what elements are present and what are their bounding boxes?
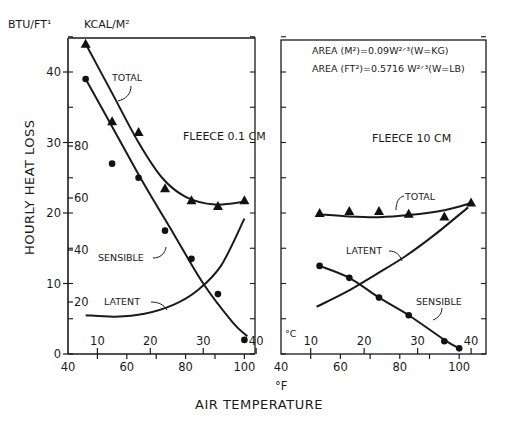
triangle-marker	[134, 127, 144, 136]
f-tick-label: 40	[61, 360, 76, 374]
sensible-curve	[320, 266, 460, 348]
area-formula-lb: AREA (FT²)=0.5716 W²ᐟ³(W=LB)	[312, 63, 465, 74]
c-tick-label: 30	[410, 334, 425, 348]
circle-marker	[188, 256, 195, 263]
circle-marker	[215, 291, 222, 298]
left-total-leader	[118, 86, 131, 101]
latent-curve	[317, 207, 468, 306]
right-sensible-leader	[433, 308, 442, 320]
f-tick-label: 80	[392, 360, 407, 374]
left-sensible-label: SENSIBLE	[98, 252, 144, 263]
c-tick-label: 40	[249, 334, 264, 348]
f-tick-label: 80	[178, 360, 193, 374]
circle-marker	[441, 338, 448, 345]
left-axis-ticks: 4060801001020304001020304020406080	[46, 37, 263, 374]
celsius-unit: °C	[285, 328, 297, 339]
right-axis-ticks: 40608010010203040	[274, 37, 486, 374]
left-panel: 4060801001020304001020304020406080 FLEEC…	[46, 37, 265, 374]
kcal-tick-label: 80	[74, 139, 89, 153]
circle-marker	[109, 160, 116, 167]
c-tick-label: 10	[90, 334, 105, 348]
circle-marker	[346, 275, 353, 282]
right-sensible-label: SENSIBLE	[416, 296, 462, 307]
triangle-marker	[239, 195, 249, 204]
circle-marker	[405, 312, 412, 319]
right-curves	[317, 203, 471, 348]
btu-tick-label: 20	[46, 206, 61, 220]
circle-marker	[82, 76, 89, 83]
f-tick-label: 60	[119, 360, 134, 374]
fahrenheit-unit: °F	[275, 379, 287, 393]
c-tick-label: 40	[464, 334, 479, 348]
left-latent-label: LATENT	[104, 296, 140, 307]
triangle-marker	[466, 197, 476, 206]
left-sensible-leader	[153, 247, 166, 258]
kcal-tick-label: 40	[74, 243, 89, 257]
triangle-marker	[404, 209, 414, 218]
c-tick-label: 20	[357, 334, 372, 348]
kcal-tick-label: 20	[74, 295, 89, 309]
f-tick-label: 100	[448, 360, 470, 374]
heat-loss-figure: BTU/FT¹ KCAL/M² HOURLY HEAT LOSS 4060801…	[0, 0, 508, 433]
triangle-marker	[315, 208, 325, 217]
y-units-btu: BTU/FT¹	[8, 18, 51, 31]
left-total-label: TOTAL	[111, 72, 143, 83]
left-panel-label: FLEECE 0.1 CM	[183, 130, 266, 143]
kcal-tick-label: 60	[74, 191, 89, 205]
f-tick-label: 40	[274, 360, 289, 374]
y-axis-title: HOURLY HEAT LOSS	[22, 119, 37, 255]
circle-marker	[162, 227, 169, 234]
circle-marker	[376, 294, 383, 301]
triangle-marker	[81, 39, 91, 48]
btu-tick-label: 0	[54, 347, 61, 361]
circle-marker	[456, 345, 463, 352]
circle-marker	[135, 174, 142, 181]
c-tick-label: 20	[143, 334, 158, 348]
right-panel-label: FLEECE 10 CM	[372, 132, 451, 145]
f-tick-label: 100	[233, 360, 255, 374]
area-formula-kg: AREA (M²)=0.09W²ᐟ³(W=KG)	[312, 45, 449, 56]
right-panel: 40608010010203040 AREA (M²)=0.09W²ᐟ³(W=K…	[274, 37, 486, 374]
total-curve	[320, 203, 471, 217]
triangle-marker	[374, 206, 384, 215]
f-tick-label: 60	[333, 360, 348, 374]
c-tick-label: 10	[303, 334, 318, 348]
x-axis-title: AIR TEMPERATURE	[195, 397, 323, 412]
btu-tick-label: 10	[46, 277, 61, 291]
btu-tick-label: 30	[46, 136, 61, 150]
left-panel-frame	[68, 38, 255, 354]
c-tick-label: 30	[196, 334, 211, 348]
btu-tick-label: 40	[46, 65, 61, 79]
y-units-kcal: KCAL/M²	[84, 18, 130, 31]
right-total-label: TOTAL	[404, 191, 436, 202]
triangle-marker	[344, 206, 354, 215]
circle-marker	[316, 263, 323, 270]
circle-marker	[241, 337, 248, 344]
right-latent-label: LATENT	[346, 245, 382, 256]
triangle-marker	[439, 212, 449, 221]
right-total-leader	[396, 196, 404, 210]
